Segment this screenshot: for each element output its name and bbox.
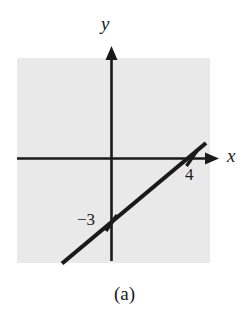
y-intercept-label: −3 [77,211,95,228]
graph-figure: y x 4 −3 (a) [0,0,249,311]
x-axis-label: x [227,146,235,165]
y-axis-label: y [101,14,109,33]
plot-background-rect [17,58,210,263]
y-axis-arrowhead [106,46,118,60]
x-intercept-label: 4 [185,166,194,183]
figure-caption: (a) [0,283,249,305]
coordinate-plane-svg [0,0,249,311]
x-axis-arrowhead [205,153,219,165]
